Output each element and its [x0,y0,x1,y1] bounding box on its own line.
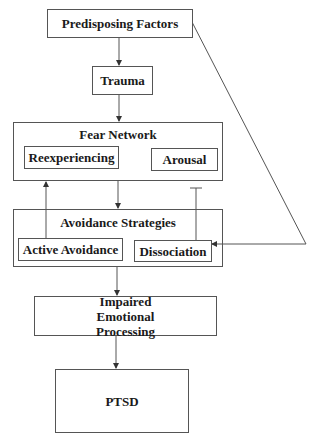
node-label: Active Avoidance [23,242,118,257]
node-active-avoidance: Active Avoidance [18,238,123,261]
node-label: Predisposing Factors [62,16,178,31]
node-label: Trauma [100,73,145,88]
node-reexperiencing: Reexperiencing [24,146,119,169]
node-label: PTSD [105,394,138,409]
node-label: Dissociation [139,244,206,259]
node-impaired-emotional-processing: Impaired Emotional Processing [34,296,217,336]
node-arousal: Arousal [151,148,218,171]
group-title: Avoidance Strategies [14,215,222,231]
node-label: Arousal [163,152,207,167]
node-ptsd: PTSD [55,369,189,433]
node-trauma: Trauma [92,66,153,95]
node-predisposing-factors: Predisposing Factors [47,9,193,38]
node-label: Impaired Emotional Processing [75,294,176,339]
node-dissociation: Dissociation [134,240,212,262]
node-label: Reexperiencing [29,150,115,165]
group-title: Fear Network [14,127,222,143]
